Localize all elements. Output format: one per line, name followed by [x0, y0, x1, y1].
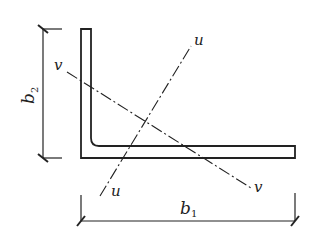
b2-dimension: [38, 25, 62, 162]
v-label-left: v: [54, 56, 63, 74]
u-u-axis: [100, 46, 191, 196]
angle-section-diagram: b2 b1 u u v v: [0, 0, 322, 248]
v-label-right: v: [254, 178, 263, 196]
b2-label: b2: [18, 87, 40, 104]
angle-section-outline: [81, 29, 295, 158]
v-v-axis: [67, 72, 251, 188]
b1-label: b1: [180, 198, 197, 219]
u-label-top: u: [194, 31, 204, 49]
u-label-bottom: u: [111, 182, 121, 200]
